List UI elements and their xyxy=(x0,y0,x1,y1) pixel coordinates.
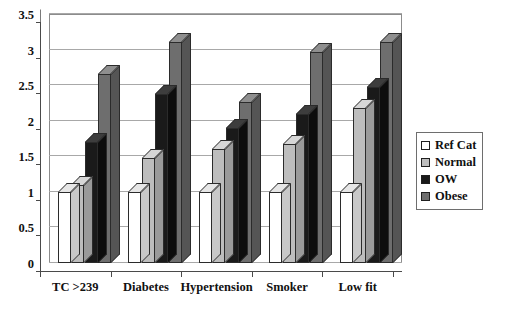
legend-swatch-icon xyxy=(421,175,430,184)
legend-item-normal[interactable]: Normal xyxy=(421,154,476,171)
x-axis-label: TC >239 xyxy=(52,280,98,295)
bar-side xyxy=(239,119,248,263)
bar-side xyxy=(225,140,234,263)
bar-side xyxy=(182,33,191,263)
legend-item-ref-cat[interactable]: Ref Cat xyxy=(421,137,476,154)
bar-ref-cat-low-fit xyxy=(340,192,353,263)
y-tick-label: 0 xyxy=(28,257,34,272)
legend-swatch-icon xyxy=(421,192,430,201)
x-tick xyxy=(181,272,182,277)
bar-side xyxy=(212,183,221,263)
y-tick-label: 2 xyxy=(28,114,34,129)
legend-label: Ref Cat xyxy=(435,138,476,153)
x-tick xyxy=(111,272,112,277)
bar-side xyxy=(252,93,261,263)
bar-side xyxy=(111,65,120,263)
bar-side xyxy=(353,183,362,263)
legend-swatch-icon xyxy=(421,158,430,167)
x-tick xyxy=(40,272,41,277)
bar-side xyxy=(366,99,375,263)
x-axis-label: Low fit xyxy=(338,280,377,295)
bar-ref-cat-tc-239 xyxy=(58,192,71,263)
chart-legend: Ref CatNormalOWObese xyxy=(416,132,483,210)
y-tick-label: 3 xyxy=(28,43,34,58)
bar-side xyxy=(71,183,80,263)
y-tick xyxy=(36,93,41,94)
x-axis-label: Smoker xyxy=(266,280,308,295)
bar-face xyxy=(269,192,282,263)
bar-ref-cat-diabetes xyxy=(128,192,141,263)
bar-side xyxy=(98,133,107,263)
x-tick xyxy=(322,272,323,277)
legend-swatch-icon xyxy=(421,141,430,150)
bar-side xyxy=(296,135,305,263)
legend-item-ow[interactable]: OW xyxy=(421,171,476,188)
legend-label: Normal xyxy=(435,155,476,170)
bar-side xyxy=(309,105,318,263)
y-tick-label: 1.5 xyxy=(18,150,34,165)
x-axis-label: Hypertension xyxy=(180,280,252,295)
y-tick xyxy=(36,129,41,130)
bar-face xyxy=(128,192,141,263)
y-tick xyxy=(36,200,41,201)
x-axis xyxy=(40,271,402,272)
y-tick xyxy=(36,22,41,23)
bar-side xyxy=(393,33,402,263)
bar-ref-cat-hypertension xyxy=(199,192,212,263)
y-tick-label: 3.5 xyxy=(18,8,34,23)
bar-side xyxy=(84,176,93,263)
legend-label: Obese xyxy=(435,189,468,204)
plot-area: 00.511.522.533.5 TC >239DiabetesHyperten… xyxy=(40,14,402,272)
x-tick xyxy=(252,272,253,277)
y-tick-label: 0.5 xyxy=(18,221,34,236)
x-axis-label: Diabetes xyxy=(123,280,169,295)
legend-label: OW xyxy=(435,172,457,187)
bar-side xyxy=(380,78,389,263)
legend-item-obese[interactable]: Obese xyxy=(421,188,476,205)
bars-layer xyxy=(40,14,402,272)
bar-side xyxy=(155,149,164,263)
bar-side xyxy=(141,183,150,263)
bar-side xyxy=(168,85,177,263)
bar-ref-cat-smoker xyxy=(269,192,282,263)
y-tick xyxy=(36,235,41,236)
bar-face xyxy=(199,192,212,263)
figure-caption xyxy=(0,313,506,321)
y-tick xyxy=(36,164,41,165)
y-tick-label: 1 xyxy=(28,185,34,200)
bar-face xyxy=(58,192,71,263)
x-tick xyxy=(393,272,394,277)
y-tick-label: 2.5 xyxy=(18,79,34,94)
bar-side xyxy=(282,183,291,263)
bar-face xyxy=(340,192,353,263)
bar-side xyxy=(323,43,332,263)
y-tick xyxy=(36,58,41,59)
chart-figure: 00.511.522.533.5 TC >239DiabetesHyperten… xyxy=(0,0,506,322)
